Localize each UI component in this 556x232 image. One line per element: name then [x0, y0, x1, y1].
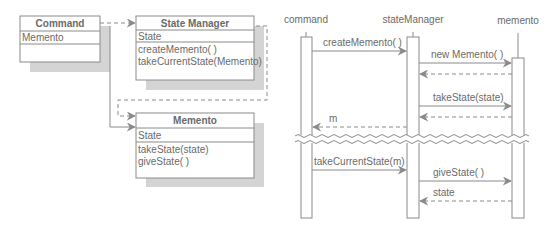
message-new-memento: new Memento( ) — [419, 49, 511, 63]
diagram-canvas: Command Memento State Manager State crea… — [0, 0, 556, 232]
activation-command — [301, 37, 312, 218]
relation-command-to-memento — [110, 26, 135, 127]
participant-state-manager: stateManager — [382, 14, 444, 25]
svg-text:new Memento( ): new Memento( ) — [431, 49, 503, 60]
class-memento: Memento State takeState(state) giveState… — [136, 113, 264, 187]
participant-memento: memento — [497, 15, 539, 26]
svg-text:createMemento( ): createMemento( ) — [323, 37, 402, 48]
message-create-memento: createMemento( ) — [312, 37, 406, 51]
class-state-manager: State Manager State createMemento( ) tak… — [136, 16, 264, 90]
svg-text:state: state — [433, 187, 455, 198]
class-command: Command Memento — [20, 16, 110, 72]
activation-state-manager — [407, 37, 419, 218]
class-state-manager-title: State Manager — [161, 18, 229, 29]
message-take-current-state: takeCurrentState(m) — [312, 156, 406, 170]
class-memento-method: takeState(state) — [138, 144, 209, 155]
class-state-manager-method: createMemento( ) — [138, 44, 217, 55]
message-give-state: giveState( ) — [419, 167, 511, 181]
class-command-attribute: Memento — [22, 32, 64, 43]
time-break — [294, 135, 530, 144]
svg-text:m: m — [329, 113, 337, 124]
message-state-return: state — [420, 187, 512, 201]
svg-text:takeCurrentState(m): takeCurrentState(m) — [314, 156, 405, 167]
class-state-manager-attribute: State — [138, 31, 162, 42]
message-return-m: m — [313, 113, 407, 127]
message-take-state: takeState(state) — [419, 92, 511, 106]
svg-text:giveState( ): giveState( ) — [433, 167, 484, 178]
participant-command: command — [284, 14, 328, 25]
class-state-manager-method: takeCurrentState(Memento) — [138, 56, 262, 67]
class-memento-attribute: State — [138, 130, 162, 141]
svg-text:takeState(state): takeState(state) — [433, 92, 504, 103]
class-memento-title: Memento — [173, 115, 217, 126]
class-command-title: Command — [36, 18, 85, 29]
class-memento-method: giveState( ) — [138, 156, 189, 167]
